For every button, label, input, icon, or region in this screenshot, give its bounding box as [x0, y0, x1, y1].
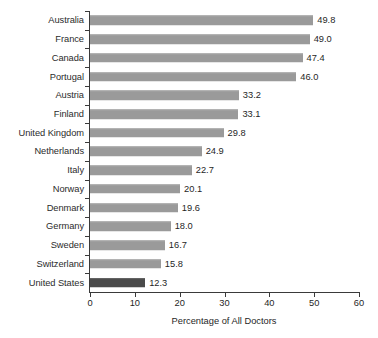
bar: [90, 91, 239, 101]
x-axis-tick-label: 0: [87, 298, 92, 308]
category-label: Sweden: [51, 240, 84, 250]
bar-value-label: 49.0: [314, 34, 332, 44]
y-axis-tick: [85, 273, 90, 274]
bar: [90, 240, 165, 250]
bar: [90, 259, 161, 269]
category-label: Netherlands: [34, 146, 84, 156]
x-axis-tick: [180, 292, 181, 297]
bar-value-label: 24.9: [206, 146, 224, 156]
category-label: Canada: [52, 53, 84, 63]
chart-category-row: Sweden16.7: [0, 236, 378, 255]
bar-value-label: 12.3: [149, 278, 167, 288]
bar: [90, 53, 303, 63]
chart-category-row: Switzerland15.8: [0, 255, 378, 274]
bar: [90, 203, 178, 213]
y-axis-tick: [85, 236, 90, 237]
x-axis-tick: [225, 292, 226, 297]
chart-category-row: France49.0: [0, 30, 378, 49]
category-label: Norway: [53, 184, 84, 194]
bar-value-label: 15.8: [165, 259, 183, 269]
bar-value-label: 49.8: [317, 15, 335, 25]
bar-chart: Australia49.8France49.0Canada47.4Portuga…: [0, 0, 378, 338]
y-axis-tick: [85, 161, 90, 162]
bar-value-label: 16.7: [169, 240, 187, 250]
chart-category-row: Norway20.1: [0, 180, 378, 199]
category-label: Switzerland: [36, 259, 84, 269]
bar: [90, 184, 180, 194]
bar-value-label: 33.2: [243, 90, 261, 100]
category-label: Australia: [48, 15, 84, 25]
y-axis-tick: [85, 142, 90, 143]
bar: [90, 109, 238, 119]
chart-category-row: United States12.3: [0, 273, 378, 292]
chart-category-row: Canada47.4: [0, 48, 378, 67]
category-label: Austria: [55, 90, 84, 100]
y-axis-tick: [85, 86, 90, 87]
x-axis-tick: [269, 292, 270, 297]
chart-category-row: Finland33.1: [0, 105, 378, 124]
y-axis-tick: [85, 30, 90, 31]
category-label: United States: [29, 278, 84, 288]
chart-category-row: United Kingdom29.8: [0, 123, 378, 142]
bar: [90, 72, 296, 82]
x-axis-title: Percentage of All Doctors: [0, 316, 378, 326]
chart-category-row: Italy22.7: [0, 161, 378, 180]
x-axis-title-text: Percentage of All Doctors: [172, 316, 277, 326]
bar-value-label: 18.0: [175, 221, 193, 231]
y-axis-tick: [85, 217, 90, 218]
x-axis-tick-label: 30: [219, 298, 229, 308]
bar: [90, 147, 202, 157]
x-axis-tick-label: 50: [309, 298, 319, 308]
bar-value-label: 46.0: [300, 72, 318, 82]
bar-value-label: 47.4: [307, 53, 325, 63]
bar-value-label: 29.8: [228, 128, 246, 138]
y-axis-tick: [85, 198, 90, 199]
bar-value-label: 33.1: [242, 109, 260, 119]
bar: [90, 34, 310, 44]
y-axis-tick: [85, 67, 90, 68]
x-axis-tick-label: 40: [264, 298, 274, 308]
bar-value-label: 19.6: [182, 203, 200, 213]
y-axis-tick: [85, 48, 90, 49]
y-axis-tick: [85, 255, 90, 256]
bar: [90, 128, 224, 138]
y-axis-tick: [85, 11, 90, 12]
category-label: Finland: [54, 109, 84, 119]
chart-category-row: Germany18.0: [0, 217, 378, 236]
category-label: Denmark: [47, 203, 84, 213]
category-label: Germany: [46, 221, 84, 231]
chart-category-row: Austria33.2: [0, 86, 378, 105]
category-label: Italy: [67, 165, 84, 175]
x-axis-tick: [90, 292, 91, 297]
x-axis-tick: [135, 292, 136, 297]
x-axis-tick-label: 10: [130, 298, 140, 308]
x-axis-tick-label: 20: [174, 298, 184, 308]
bar-value-label: 20.1: [184, 184, 202, 194]
y-axis-tick: [85, 180, 90, 181]
x-axis-tick: [359, 292, 360, 297]
bar-value-label: 22.7: [196, 165, 214, 175]
bar: [90, 165, 192, 175]
category-label: Portugal: [50, 72, 84, 82]
category-label: France: [55, 34, 84, 44]
bar: [90, 222, 171, 232]
category-label: United Kingdom: [19, 128, 84, 138]
chart-category-row: Denmark19.6: [0, 198, 378, 217]
bar: [90, 278, 145, 288]
y-axis-tick: [85, 123, 90, 124]
chart-category-row: Australia49.8: [0, 11, 378, 30]
bar: [90, 16, 313, 26]
chart-category-row: Portugal46.0: [0, 67, 378, 86]
x-axis-tick-label: 60: [354, 298, 364, 308]
y-axis-tick: [85, 105, 90, 106]
x-axis-tick: [314, 292, 315, 297]
chart-category-row: Netherlands24.9: [0, 142, 378, 161]
